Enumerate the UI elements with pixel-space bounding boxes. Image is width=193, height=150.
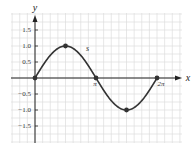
y-tick-label: −1.0 <box>18 106 31 114</box>
y-tick-label: 0.5 <box>22 58 31 66</box>
data-point <box>63 44 68 49</box>
x-tick-label: π <box>93 80 97 88</box>
y-tick-label: 1.0 <box>22 42 31 50</box>
data-point <box>94 76 99 81</box>
y-axis-arrow-icon <box>33 15 38 22</box>
data-point <box>155 76 160 81</box>
y-axis-label: y <box>32 2 38 13</box>
x-axis-label: x <box>185 72 191 83</box>
sine-chart: 1.51.00.5−0.5−1.0−1.5π2π xys <box>0 0 193 150</box>
x-tick-label: 2π <box>158 80 166 88</box>
y-tick-label: −1.5 <box>18 122 31 130</box>
y-tick-label: 1.5 <box>22 26 31 34</box>
curve-label: s <box>86 44 89 53</box>
x-axis-arrow-icon <box>175 76 182 81</box>
data-point <box>124 108 129 113</box>
y-tick-label: −0.5 <box>18 90 31 98</box>
data-point <box>33 76 38 81</box>
